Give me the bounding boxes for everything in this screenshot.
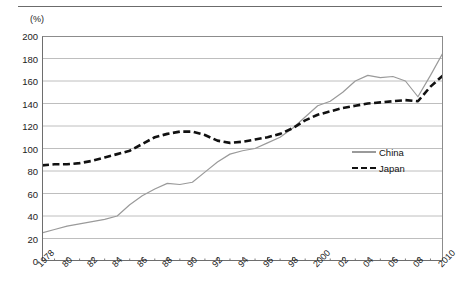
legend-key-china-icon [352, 151, 376, 152]
y-axis-tick-labels: 020406080100120140160180200 [8, 0, 38, 298]
y-axis-tick-label: 80 [14, 166, 38, 177]
y-axis-tick-label: 140 [14, 98, 38, 109]
x-axis-tick-labels: 1978808284868890929496982000020406082010 [0, 262, 459, 298]
y-axis-tick-label: 20 [14, 233, 38, 244]
legend-item-china: China [352, 144, 405, 160]
y-axis-tick-label: 200 [14, 31, 38, 42]
legend-label-japan: Japan [379, 163, 405, 174]
series-line-china [42, 53, 443, 233]
line-chart: (%) 020406080100120140160180200 19788082… [0, 0, 459, 298]
y-axis-tick-label: 160 [14, 76, 38, 87]
data-series-group [42, 53, 443, 233]
y-axis-tick-label: 180 [14, 53, 38, 64]
chart-legend: China Japan [352, 144, 405, 176]
legend-item-japan: Japan [352, 160, 405, 176]
y-axis-tick-label: 60 [14, 188, 38, 199]
y-axis-tick-label: 40 [14, 211, 38, 222]
y-axis-tick-label: 120 [14, 121, 38, 132]
legend-key-japan-icon [352, 167, 376, 169]
y-axis-tick-label: 100 [14, 143, 38, 154]
legend-label-china: China [379, 147, 404, 158]
